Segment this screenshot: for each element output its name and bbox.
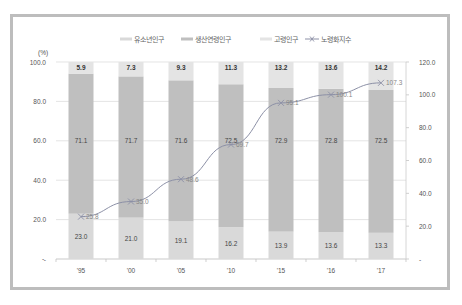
bar-value-label: 72.8 <box>325 137 338 144</box>
bar-value-label: 7.3 <box>126 64 135 71</box>
x-axis-label: '17 <box>377 267 386 274</box>
aging-index-label: 25.8 <box>86 213 99 220</box>
bar-value-label: 72.9 <box>275 137 288 144</box>
bar-value-label: 13.6 <box>325 242 338 249</box>
bar-value-label: 13.3 <box>375 242 388 249</box>
bar-value-label: 14.2 <box>375 64 388 71</box>
legend-swatch <box>181 38 193 41</box>
aging-index-label: 107.3 <box>386 79 403 86</box>
bar-value-label: 9.3 <box>176 64 185 71</box>
legend-item-label: 유소년인구 <box>134 35 165 44</box>
right-axis-tick: 100.0 <box>419 91 436 98</box>
right-axis-tick: 80.0 <box>419 124 432 131</box>
right-axis-tick: 20.0 <box>419 223 432 230</box>
y-axis-unit: (%) <box>38 49 48 57</box>
legend-item-label: 생산연령인구 <box>195 35 232 44</box>
bar-value-label: 13.9 <box>275 242 288 249</box>
x-axis-origin-dash: - <box>42 255 44 262</box>
bar-value-label: 21.0 <box>125 235 138 242</box>
right-axis-tick: 40.0 <box>419 190 432 197</box>
aging-index-label: 69.7 <box>236 141 249 148</box>
legend-swatch <box>260 38 272 41</box>
right-axis-tick: 120.0 <box>419 59 436 66</box>
right-axis-tick: - <box>419 256 421 263</box>
bar-segment-working-age <box>319 89 344 232</box>
left-axis-tick: 100.0 <box>30 59 47 66</box>
x-axis-label: '15 <box>277 267 286 274</box>
legend-item-label: 노령화지수 <box>321 35 352 44</box>
bar-segment-working-age <box>369 90 394 233</box>
bar-segment-working-age <box>269 88 294 232</box>
bar-value-label: 11.3 <box>225 64 238 71</box>
legend-item-label: 고령인구 <box>274 35 299 44</box>
bar-value-label: 5.9 <box>76 64 85 71</box>
aging-index-label: 48.6 <box>186 176 199 183</box>
x-axis-label: '95 <box>77 267 86 274</box>
bar-value-label: 13.2 <box>275 64 288 71</box>
x-axis-label: '00 <box>127 267 136 274</box>
bar-segment-working-age <box>169 80 194 221</box>
x-axis-label: '16 <box>327 267 336 274</box>
aging-index-label: 95.1 <box>286 99 299 106</box>
bar-value-label: 71.1 <box>75 137 88 144</box>
bar-value-label: 23.0 <box>75 233 88 240</box>
x-axis-label: '10 <box>227 267 236 274</box>
aging-index-chart: -20.040.060.080.0100.0-20.040.060.080.01… <box>0 0 462 305</box>
bar-value-label: 19.1 <box>175 237 188 244</box>
left-axis-tick: 20.0 <box>33 216 46 223</box>
bar-value-label: 16.2 <box>225 240 238 247</box>
left-axis-tick: 40.0 <box>33 177 46 184</box>
legend-swatch <box>120 38 132 41</box>
aging-index-label: 35.0 <box>136 198 149 205</box>
left-axis-tick: 60.0 <box>33 137 46 144</box>
aging-index-label: 100.1 <box>336 91 353 98</box>
bar-value-label: 71.6 <box>175 137 188 144</box>
x-axis-label: '05 <box>177 267 186 274</box>
left-axis-tick: 80.0 <box>33 98 46 105</box>
bar-value-label: 13.6 <box>325 64 338 71</box>
bar-value-label: 71.7 <box>125 137 138 144</box>
bar-value-label: 72.5 <box>375 137 388 144</box>
right-axis-tick: 60.0 <box>419 157 432 164</box>
bar-segment-working-age <box>219 84 244 227</box>
bar-segment-working-age <box>119 76 144 217</box>
